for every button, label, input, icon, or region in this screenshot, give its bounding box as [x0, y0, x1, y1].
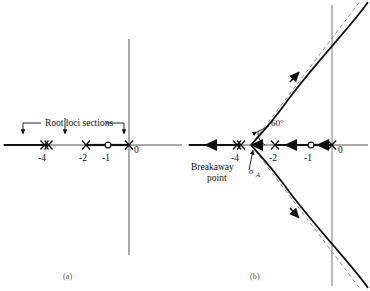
- axis-label-minus2-b: -2: [269, 153, 277, 163]
- caption-panel-a: (a): [63, 272, 72, 281]
- caption-panel-b: (b): [250, 272, 260, 281]
- axis-label-minus4-a: -4: [38, 153, 46, 163]
- axis-label-minus1-b: -1: [304, 153, 312, 163]
- zero-marker-minus1: [105, 142, 111, 148]
- panel-a: Root loci sections -4 -2 -1 0: [0, 0, 185, 291]
- root-loci-sections-label: Root loci sections: [45, 118, 113, 128]
- axis-label-minus2-a: -2: [79, 153, 87, 163]
- panel-a-canvas: Root loci sections -4 -2 -1 0: [0, 0, 185, 291]
- angle-label: 60°: [271, 118, 284, 128]
- axis-label-minus4-b: -4: [231, 153, 239, 163]
- locus-branch-lower: [251, 145, 368, 288]
- axis-label-minus1-a: -1: [102, 153, 110, 163]
- root-locus-figure: Root loci sections -4 -2 -1 0: [0, 0, 370, 291]
- zero-marker-minus1: [308, 142, 314, 148]
- sigma-a-subscript: A: [255, 171, 260, 178]
- breakaway-label-line1: Breakaway: [191, 162, 234, 172]
- breakaway-label-line2: point: [207, 173, 227, 183]
- sigma-a-label: σ: [249, 166, 254, 176]
- panel-b-canvas: 60° Breakaway point σ A -4 -2 -1 0: [185, 0, 370, 291]
- axis-label-origin-b: 0: [338, 145, 343, 155]
- locus-branch-upper: [251, 2, 368, 145]
- axis-label-origin-a: 0: [134, 145, 139, 155]
- panel-b: 60° Breakaway point σ A -4 -2 -1 0: [185, 0, 370, 291]
